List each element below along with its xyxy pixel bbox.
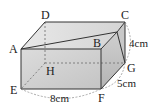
dimension-depth: 5cm xyxy=(117,77,136,89)
dimension-width: 8cm xyxy=(50,92,69,104)
dimension-height: 4cm xyxy=(129,37,148,49)
label-b: B xyxy=(93,36,101,50)
prism-diagram: D C A B H G E F 4cm 5cm 8cm xyxy=(0,0,162,111)
front-face xyxy=(21,49,101,89)
label-f: F xyxy=(98,91,105,105)
label-a: A xyxy=(9,42,18,56)
label-d: D xyxy=(41,8,50,22)
label-e: E xyxy=(10,83,17,97)
label-h: H xyxy=(46,64,55,78)
label-g: G xyxy=(127,61,136,75)
label-c: C xyxy=(121,8,129,22)
